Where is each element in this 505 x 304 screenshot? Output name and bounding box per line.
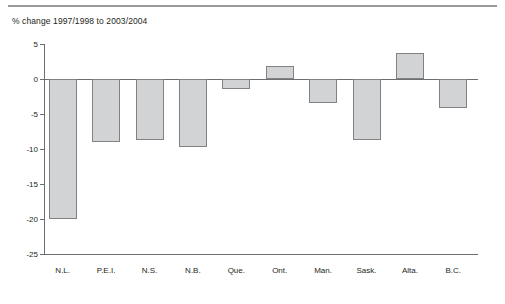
x-tick-label: P.E.I. — [97, 266, 116, 275]
y-tick: -20 — [44, 219, 45, 220]
bar — [92, 79, 120, 142]
bar — [439, 79, 467, 108]
y-tick-mark — [40, 219, 44, 220]
y-tick-label: -15 — [26, 180, 38, 189]
y-tick-mark — [40, 44, 44, 45]
y-tick-mark — [40, 149, 44, 150]
y-tick: -15 — [44, 184, 45, 185]
x-tick-label: Man. — [314, 266, 332, 275]
x-tick-label: N.B. — [185, 266, 201, 275]
bar — [396, 53, 424, 79]
x-tick-label: Que. — [228, 266, 245, 275]
plot-area: 50-5-10-15-20-25 N.L.P.E.I.N.S.N.B.Que.O… — [44, 44, 478, 254]
y-tick-mark — [40, 254, 44, 255]
y-tick: -25 — [44, 254, 45, 255]
y-tick-mark — [40, 184, 44, 185]
y-tick-label: -5 — [31, 110, 38, 119]
y-tick-label: 0 — [34, 75, 38, 84]
x-axis-line — [44, 254, 478, 255]
y-tick-label: -25 — [26, 250, 38, 259]
chart-title: % change 1997/1998 to 2003/2004 — [12, 16, 147, 26]
bar — [222, 79, 250, 89]
y-tick: 0 — [44, 79, 45, 80]
y-tick-label: 5 — [34, 40, 38, 49]
y-tick: -5 — [44, 114, 45, 115]
y-tick-mark — [40, 79, 44, 80]
bar — [136, 79, 164, 140]
y-tick: 5 — [44, 44, 45, 45]
x-tick-label: N.S. — [142, 266, 158, 275]
x-tick-label: N.L. — [55, 266, 70, 275]
y-tick-label: -20 — [26, 215, 38, 224]
bar — [309, 79, 337, 103]
x-tick-label: B.C. — [446, 266, 462, 275]
bar — [353, 79, 381, 140]
bar — [179, 79, 207, 147]
y-tick: -10 — [44, 149, 45, 150]
bar — [266, 66, 294, 79]
bar — [49, 79, 77, 219]
x-tick-label: Ont. — [272, 266, 287, 275]
header-rule — [8, 5, 497, 7]
x-tick-label: Alta. — [402, 266, 418, 275]
y-tick-label: -10 — [26, 145, 38, 154]
y-tick-mark — [40, 114, 44, 115]
chart-figure: % change 1997/1998 to 2003/2004 50-5-10-… — [0, 0, 505, 304]
x-tick-label: Sask. — [356, 266, 376, 275]
